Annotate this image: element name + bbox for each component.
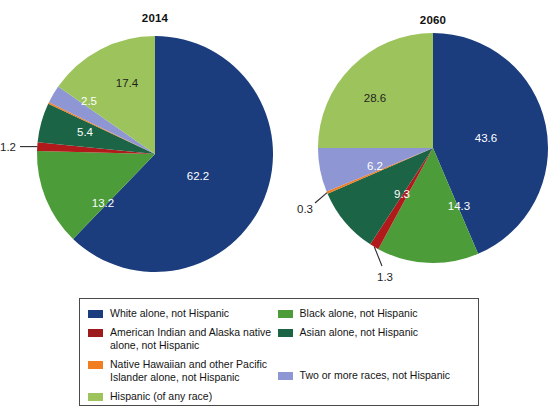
slice-value-hispanic-2014: 17.4 bbox=[116, 77, 139, 89]
legend-item-two-or-more[interactable]: Two or more races, not Hispanic bbox=[278, 369, 472, 382]
legend-item-black-alone[interactable]: Black alone, not Hispanic bbox=[278, 307, 472, 320]
legend: White alone, not Hispanic American India… bbox=[79, 298, 479, 406]
leader-line-native-hawaiian-2060 bbox=[315, 193, 327, 203]
black-alone-swatch bbox=[278, 310, 293, 318]
legend-label-hispanic: Hispanic (of any race) bbox=[110, 390, 212, 403]
pie-chart-2060: 43.6 14.3 9.3 6.2 28.6 0.3 1.3 bbox=[316, 31, 551, 281]
pie-charts-area: 2014 2060 62.2 13.2 5.4 2.5 17.4 1.2 bbox=[0, 0, 551, 292]
asian-alone-swatch bbox=[278, 329, 293, 337]
slice-value-hispanic-2060: 28.6 bbox=[364, 92, 386, 104]
slice-value-native-hawaiian-2060: 0.3 bbox=[297, 203, 313, 215]
legend-label-american-indian: American Indian and Alaska native alone,… bbox=[110, 326, 271, 352]
slice-value-american-indian-2060: 1.3 bbox=[377, 271, 393, 283]
two-or-more-swatch bbox=[278, 372, 293, 380]
slice-value-two-or-more-2014: 2.5 bbox=[81, 95, 97, 107]
slice-value-black-2060: 14.3 bbox=[448, 200, 470, 212]
white-alone-swatch bbox=[88, 310, 103, 318]
pie-chart-2014: 62.2 13.2 5.4 2.5 17.4 1.2 bbox=[35, 34, 275, 279]
legend-column-left: White alone, not Hispanic American India… bbox=[88, 307, 278, 399]
legend-item-asian-alone[interactable]: Asian alone, not Hispanic bbox=[278, 326, 472, 339]
american-indian-swatch bbox=[88, 329, 103, 337]
legend-column-right: Black alone, not Hispanic Asian alone, n… bbox=[278, 307, 472, 399]
slice-value-asian-2014: 5.4 bbox=[77, 126, 94, 138]
legend-label-black-alone: Black alone, not Hispanic bbox=[300, 307, 418, 320]
slice-value-two-or-more-2060: 6.2 bbox=[367, 160, 383, 172]
legend-label-two-or-more: Two or more races, not Hispanic bbox=[300, 369, 451, 382]
legend-item-white-alone[interactable]: White alone, not Hispanic bbox=[88, 307, 278, 320]
legend-item-american-indian[interactable]: American Indian and Alaska native alone,… bbox=[88, 326, 278, 352]
legend-label-asian-alone: Asian alone, not Hispanic bbox=[300, 326, 419, 339]
pie-title-2014: 2014 bbox=[122, 12, 188, 24]
legend-item-hispanic[interactable]: Hispanic (of any race) bbox=[88, 390, 278, 403]
native-hawaiian-swatch bbox=[88, 361, 103, 369]
slice-value-american-indian-2014: 1.2 bbox=[0, 141, 16, 153]
slice-value-black-2014: 13.2 bbox=[92, 197, 114, 209]
pie-title-2060: 2060 bbox=[400, 14, 466, 26]
slice-hispanic-2060[interactable] bbox=[318, 33, 433, 148]
legend-item-native-hawaiian[interactable]: Native Hawaiian and other Pacific Island… bbox=[88, 358, 278, 384]
slice-value-white-2060: 43.6 bbox=[475, 132, 497, 144]
legend-label-white-alone: White alone, not Hispanic bbox=[110, 307, 229, 320]
slice-value-asian-2060: 9.3 bbox=[394, 188, 410, 200]
slice-value-white-2014: 62.2 bbox=[187, 170, 209, 182]
legend-label-native-hawaiian: Native Hawaiian and other Pacific Island… bbox=[110, 358, 267, 384]
hispanic-swatch bbox=[88, 393, 103, 401]
